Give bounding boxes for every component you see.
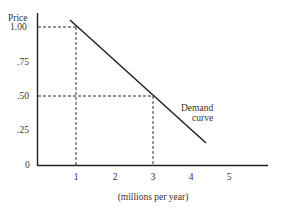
curve-label-line1: Demand xyxy=(181,103,213,113)
demand-curve xyxy=(70,20,206,143)
demand-chart: Price 1.00 .75 .50 .25 0 1 2 3 4 5 (mill… xyxy=(0,0,286,210)
x-tick-1: 1 xyxy=(74,172,79,182)
y-tick-0: 0 xyxy=(25,160,30,170)
x-tick-3: 3 xyxy=(151,172,156,182)
y-tick-1.00: 1.00 xyxy=(10,22,27,32)
y-tick-.50: .50 xyxy=(17,91,29,101)
x-tick-4: 4 xyxy=(189,172,194,182)
y-tick-.25: .25 xyxy=(17,125,29,135)
x-axis-label: (millions per year) xyxy=(118,192,189,203)
y-tick-.75: .75 xyxy=(17,57,29,67)
curve-label-line2: curve xyxy=(192,113,213,123)
guide-q3-p50 xyxy=(38,96,153,165)
x-tick-2: 2 xyxy=(113,172,118,182)
x-tick-5: 5 xyxy=(227,172,232,182)
